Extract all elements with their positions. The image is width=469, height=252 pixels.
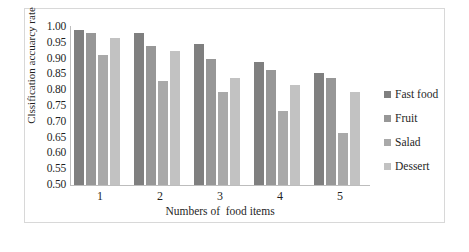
y-axis-tick-label: 0.60: [26, 147, 66, 159]
bar-group: 2: [130, 27, 190, 185]
bar-fruit: [326, 78, 336, 185]
y-axis-tick-label: 0.55: [26, 163, 66, 175]
x-axis-line: [70, 185, 370, 186]
bar-group: 1: [70, 27, 130, 185]
legend-item: Fruit: [384, 110, 466, 129]
x-axis-tick-label: 2: [130, 190, 190, 202]
bar-group: 3: [190, 27, 250, 185]
legend-swatch-icon: [384, 115, 391, 122]
bar-group: 5: [310, 27, 370, 185]
legend-label: Fruit: [395, 110, 417, 126]
bar-salad: [158, 81, 168, 185]
x-axis-tick-label: 1: [70, 190, 130, 202]
bar-group: 4: [250, 27, 310, 185]
bar-fruit: [206, 59, 216, 185]
legend-item: Fast food: [384, 86, 466, 105]
bar-salad: [218, 92, 228, 185]
bar-dessert: [350, 92, 360, 185]
bar-fast-food: [134, 33, 144, 185]
x-axis-tick-label: 5: [310, 190, 370, 202]
bar-fast-food: [194, 44, 204, 185]
bar-fruit: [266, 70, 276, 185]
bar-dessert: [290, 85, 300, 185]
legend-swatch-icon: [384, 163, 391, 170]
x-axis-title: Numbers of food items: [70, 205, 370, 217]
x-axis-tick-label: 4: [250, 190, 310, 202]
bar-fruit: [86, 33, 96, 185]
bar-dessert: [110, 38, 120, 185]
legend-swatch-icon: [384, 91, 391, 98]
legend-label: Fast food: [395, 86, 438, 102]
chart-figure: 1.000.950.900.850.800.750.700.650.600.55…: [0, 0, 469, 252]
x-axis-tick-label: 3: [190, 190, 250, 202]
bar-fast-food: [74, 30, 84, 185]
bar-salad: [338, 133, 348, 185]
bar-fruit: [146, 46, 156, 185]
legend-item: Salad: [384, 134, 466, 153]
bar-dessert: [170, 51, 180, 185]
legend-swatch-icon: [384, 139, 391, 146]
bar-fast-food: [254, 62, 264, 185]
bar-dessert: [230, 78, 240, 185]
bar-salad: [98, 55, 108, 185]
y-axis-tick-label: 0.50: [26, 179, 66, 191]
legend-label: Salad: [395, 134, 421, 150]
legend-item: Dessert: [384, 158, 466, 177]
plot-area: 12345: [70, 27, 370, 185]
bar-fast-food: [314, 73, 324, 185]
legend-label: Dessert: [395, 158, 430, 174]
chart-legend: Fast foodFruitSaladDessert: [384, 86, 466, 182]
bar-salad: [278, 111, 288, 185]
y-axis-title: Clssification accuarcy rate: [26, 0, 37, 141]
